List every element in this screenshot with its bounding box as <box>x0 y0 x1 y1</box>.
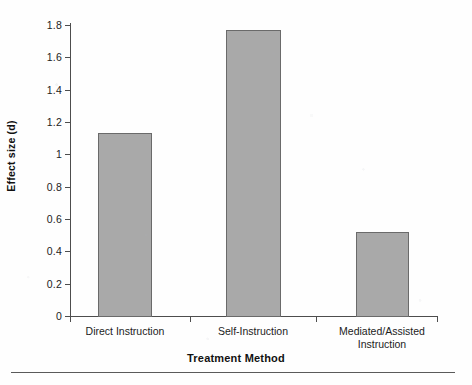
y-axis-tick <box>65 57 70 58</box>
y-axis-tick <box>65 187 70 188</box>
y-axis-tick <box>65 219 70 220</box>
y-axis-tick-label: 1 <box>18 148 62 160</box>
y-axis-tick <box>65 90 70 91</box>
x-axis-category-label: Self-Instruction <box>188 325 318 338</box>
x-axis-title: Treatment Method <box>0 352 472 364</box>
x-axis-tick <box>437 317 438 322</box>
y-axis-tick-label: 1.6 <box>18 51 62 63</box>
y-axis-tick-label: 0 <box>18 310 62 322</box>
y-axis-tick-label: 1.8 <box>18 19 62 31</box>
bar-direct-instruction <box>98 133 152 317</box>
y-axis-tick <box>65 154 70 155</box>
y-axis-tick-label: 1.2 <box>18 116 62 128</box>
bar-chart-figure: 1.8 1.6 1.4 1.2 1 0.8 0.6 0.4 0.2 0 Effe… <box>0 0 472 385</box>
x-axis-tick <box>70 317 71 322</box>
x-axis-tick <box>190 317 191 322</box>
y-axis-tick-label: 0.8 <box>18 181 62 193</box>
y-axis-title: Effect size (d) <box>5 96 17 216</box>
x-axis-category-label: Direct Instruction <box>60 325 190 338</box>
y-axis-tick-label: 0.2 <box>18 278 62 290</box>
y-axis-tick <box>65 251 70 252</box>
y-axis-tick <box>65 25 70 26</box>
y-axis-line <box>70 23 71 318</box>
bar-mediated-assisted-instruction <box>356 232 409 317</box>
y-axis-tick <box>65 284 70 285</box>
y-axis-tick-label: 1.4 <box>18 84 62 96</box>
x-axis-category-label: Mediated/Assisted Instruction <box>317 325 447 351</box>
bar-self-instruction <box>226 30 281 317</box>
figure-bottom-rule <box>11 372 455 373</box>
y-axis-tick-label: 0.6 <box>18 213 62 225</box>
y-axis-tick-label: 0.4 <box>18 245 62 257</box>
x-axis-tick <box>316 317 317 322</box>
y-axis-tick <box>65 122 70 123</box>
